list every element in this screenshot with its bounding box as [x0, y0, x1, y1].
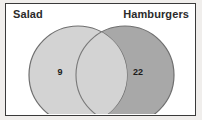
venn-diagram-screenshot: 9 22 Salad Hamburgers	[0, 0, 202, 120]
venn-count-salad-only: 9	[50, 67, 70, 77]
venn-count-hamburgers-only: 22	[127, 67, 149, 77]
diagram-frame: 9 22 Salad Hamburgers	[5, 3, 196, 116]
bottom-margin-strip	[0, 116, 202, 120]
venn-label-hamburgers: Hamburgers	[123, 8, 189, 20]
venn-graphic	[6, 4, 194, 114]
venn-svg	[6, 4, 194, 114]
venn-label-salad: Salad	[13, 8, 43, 20]
